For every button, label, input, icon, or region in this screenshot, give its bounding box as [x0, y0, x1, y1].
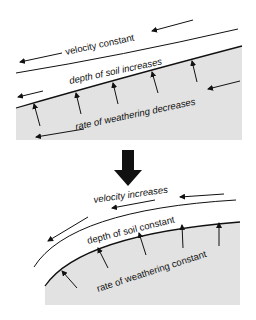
- top-panel: velocity constant depth of soil increase…: [16, 20, 242, 140]
- top-bedrock: [16, 46, 242, 140]
- bottom-panel: velocity increases depth of soil constan…: [34, 184, 240, 305]
- soil-flow-arrow-icon: [18, 91, 43, 97]
- velocity-arrow-icon: [20, 53, 62, 62]
- down-arrow-icon: [114, 150, 142, 186]
- bottom-velocity-label: velocity increases: [93, 184, 169, 205]
- weathering-diagram: velocity constant depth of soil increase…: [0, 0, 256, 320]
- velocity-arrow-icon: [180, 194, 224, 197]
- bottom-bedrock: [45, 222, 240, 305]
- velocity-arrow-icon: [152, 20, 193, 31]
- velocity-arrow-icon: [48, 217, 88, 241]
